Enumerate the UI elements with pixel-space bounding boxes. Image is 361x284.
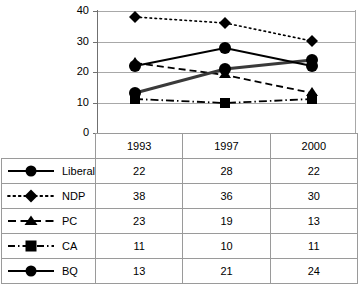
legend-cell-liberal: Liberal: [2, 159, 96, 184]
y-tick-label: 40: [77, 4, 89, 16]
legend-label: Liberal: [62, 165, 95, 177]
data-marker-diamond: [129, 11, 141, 23]
y-axis-tick-marks: [93, 11, 97, 133]
table-row: NDP 38 36 30: [2, 184, 358, 209]
table-cell: 30: [270, 184, 357, 209]
column-header-1993: 1993: [96, 134, 183, 159]
legend-cell-pc: PC: [2, 209, 96, 234]
table-row: PC 23 19 13: [2, 209, 358, 234]
y-tick-label: 20: [77, 65, 89, 77]
table-cell: 11: [270, 234, 357, 259]
column-header-1997: 1997: [183, 134, 270, 159]
table-header-row: 1993 1997 2000: [2, 134, 358, 159]
y-tick-label: 30: [77, 35, 89, 47]
legend-label: BQ: [62, 265, 78, 277]
data-marker-diamond: [306, 35, 318, 47]
table-cell: 19: [183, 209, 270, 234]
data-marker-circle: [129, 60, 141, 72]
y-axis-tick-labels: 40 30 20 10 0: [77, 4, 89, 138]
data-marker-square: [307, 94, 317, 104]
data-marker-circle: [219, 63, 231, 75]
legend-marker-liberal-solid-circle: [7, 163, 55, 179]
chart-canvas: 40 30 20 10 0: [0, 0, 361, 140]
legend-marker-ndp-dotted-diamond: [7, 188, 55, 204]
table-cell: 28: [183, 159, 270, 184]
legend-label: CA: [62, 240, 77, 252]
table-cell: 13: [96, 259, 183, 284]
column-header-2000: 2000: [270, 134, 357, 159]
table-row: Liberal 22 28 22: [2, 159, 358, 184]
data-marker-circle: [129, 87, 141, 99]
legend-marker-pc-dashed-triangle: [7, 213, 55, 229]
table-corner-cell: [2, 134, 96, 159]
table-row: CA 11 10 11: [2, 234, 358, 259]
table-row: BQ 13 21 24: [2, 259, 358, 284]
legend-label: PC: [62, 215, 77, 227]
table-cell: 36: [183, 184, 270, 209]
table-cell: 11: [96, 234, 183, 259]
legend-label: NDP: [62, 190, 85, 202]
table-cell: 22: [96, 159, 183, 184]
table-cell: 13: [270, 209, 357, 234]
table-cell: 38: [96, 184, 183, 209]
table-cell: 23: [96, 209, 183, 234]
data-marker-circle: [219, 42, 231, 54]
data-table: 1993 1997 2000 Liberal 22 28: [1, 133, 358, 284]
data-marker-square: [220, 98, 230, 108]
y-tick-label: 10: [77, 96, 89, 108]
line-chart: 40 30 20 10 0: [0, 0, 361, 140]
legend-marker-ca-dashdot-square: [7, 238, 55, 254]
data-marker-circle: [306, 60, 318, 72]
legend-cell-ca: CA: [2, 234, 96, 259]
table-cell: 22: [270, 159, 357, 184]
series-ca: [130, 94, 317, 108]
legend-marker-bq-solid-circle: [7, 263, 55, 279]
legend-cell-bq: BQ: [2, 259, 96, 284]
table-cell: 21: [183, 259, 270, 284]
table-cell: 24: [270, 259, 357, 284]
data-marker-diamond: [219, 17, 231, 29]
table-cell: 10: [183, 234, 270, 259]
legend-cell-ndp: NDP: [2, 184, 96, 209]
